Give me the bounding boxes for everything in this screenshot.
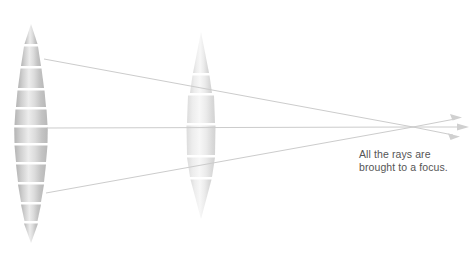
left-lens-segment <box>18 185 44 203</box>
diagram-canvas: All the rays are brought to a focus. <box>0 0 471 256</box>
left-lens-segment <box>15 110 48 126</box>
right-lens-segment <box>191 180 212 220</box>
right-lens-segment <box>193 32 209 73</box>
converging-rays <box>44 59 413 193</box>
converging-ray-middle <box>47 127 413 128</box>
right-lens-segment <box>187 96 215 124</box>
exit-ray-lower <box>413 127 453 135</box>
caption-line-2: brought to a focus. <box>359 161 448 174</box>
right-lens-segment <box>190 76 212 94</box>
converging-ray-top <box>44 59 413 127</box>
converging-ray-bottom <box>46 127 413 193</box>
left-lens-segment <box>16 91 46 108</box>
left-lens-segment <box>18 69 44 89</box>
arrowhead-straight <box>457 124 469 131</box>
right-lens <box>187 32 216 219</box>
left-lens-segment <box>16 165 46 183</box>
exit-ray-upper <box>413 119 455 127</box>
focus-caption: All the rays are brought to a focus. <box>359 148 448 173</box>
left-lens-segment <box>21 47 41 67</box>
left-lens-segment <box>14 128 48 144</box>
caption-line-1: All the rays are <box>359 148 448 161</box>
diverging-rays <box>413 119 461 135</box>
arrowhead-lower <box>448 134 460 141</box>
left-lens <box>14 24 48 243</box>
left-lens-segment <box>25 24 38 44</box>
right-lens-segment <box>187 126 216 156</box>
left-lens-segment <box>21 205 41 222</box>
left-lens-segment <box>24 224 38 244</box>
optics-ray-diagram <box>0 0 471 256</box>
left-lens-segment <box>15 146 48 163</box>
